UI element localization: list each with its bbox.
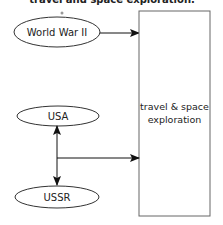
marker-dot	[61, 12, 64, 15]
target-label-line1: travel & space	[140, 101, 209, 112]
node-world-war-ii-label: World War II	[27, 27, 87, 38]
node-usa-label: USA	[48, 111, 69, 122]
node-usa: USA	[17, 106, 99, 126]
header-text: travel and space exploration.	[29, 0, 195, 5]
node-ussr: USSR	[15, 186, 99, 208]
node-travel-space-exploration: travel & space exploration	[139, 11, 210, 216]
node-ussr-label: USSR	[44, 192, 71, 203]
diagram-canvas: travel and space exploration. World War …	[0, 0, 223, 225]
node-world-war-ii: World War II	[14, 17, 100, 47]
target-label-line2: exploration	[148, 114, 202, 125]
